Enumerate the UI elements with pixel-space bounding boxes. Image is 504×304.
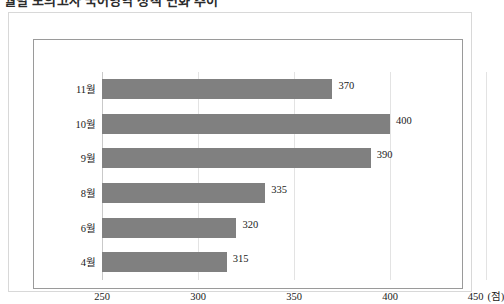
bar-4월[interactable] bbox=[102, 252, 227, 272]
category-label-11월: 11월 bbox=[56, 85, 96, 96]
x-tick-label-250: 250 bbox=[94, 292, 110, 303]
bar-row: 370 bbox=[102, 72, 486, 107]
category-label-4월: 4월 bbox=[56, 258, 96, 269]
outer-frame: 250300350400450(점) 11월10월9월8월6월4월 370400… bbox=[8, 12, 472, 292]
bar-value-label: 390 bbox=[377, 150, 393, 161]
page-title: 월별 모의고사 국어영역 성적 변화 추이 bbox=[4, 0, 218, 9]
category-label-10월: 10월 bbox=[56, 120, 96, 131]
bar-row: 400 bbox=[102, 107, 486, 142]
category-label-9월: 9월 bbox=[56, 154, 96, 165]
chart-container: 250300350400450(점) 11월10월9월8월6월4월 370400… bbox=[33, 39, 463, 289]
x-axis-unit-label: (점) bbox=[487, 291, 504, 302]
bar-value-label: 320 bbox=[242, 220, 258, 231]
x-tick-label-300: 300 bbox=[190, 292, 206, 303]
x-tick-value: 300 bbox=[190, 291, 206, 302]
x-tick-value: 400 bbox=[382, 291, 398, 302]
x-tick-label-350: 350 bbox=[286, 292, 302, 303]
bar-11월[interactable] bbox=[102, 79, 332, 99]
gridline-450 bbox=[486, 72, 487, 280]
bar-value-label: 315 bbox=[233, 254, 249, 265]
x-tick-label-450: 450(점) bbox=[468, 292, 504, 303]
bar-row: 335 bbox=[102, 176, 486, 211]
category-label-8월: 8월 bbox=[56, 189, 96, 200]
bar-10월[interactable] bbox=[102, 114, 390, 134]
bar-9월[interactable] bbox=[102, 148, 371, 168]
bar-row: 390 bbox=[102, 141, 486, 176]
bar-8월[interactable] bbox=[102, 183, 265, 203]
chart-title-strip: 월별 모의고사 국어영역 성적 변화 추이 bbox=[0, 0, 481, 9]
x-tick-value: 450 bbox=[468, 291, 484, 302]
x-tick-value: 350 bbox=[286, 291, 302, 302]
bar-value-label: 335 bbox=[271, 185, 287, 196]
x-tick-value: 250 bbox=[94, 291, 110, 302]
bar-value-label: 370 bbox=[338, 81, 354, 92]
bar-value-label: 400 bbox=[396, 116, 412, 127]
bar-row: 315 bbox=[102, 245, 486, 280]
plot-area: 370400390335320315 bbox=[102, 72, 486, 280]
bar-6월[interactable] bbox=[102, 218, 236, 238]
category-label-6월: 6월 bbox=[56, 224, 96, 235]
bar-row: 320 bbox=[102, 211, 486, 246]
x-tick-label-400: 400 bbox=[382, 292, 398, 303]
